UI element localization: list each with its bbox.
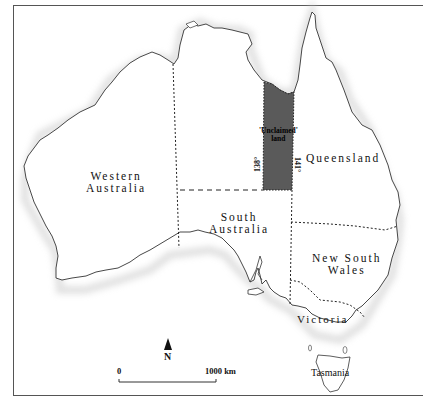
nsw-line-2: Wales [312,264,381,276]
region-label-new-south-wales: New South Wales [312,252,381,276]
unclaimed-line-2: land [259,135,298,143]
region-label-south-australia: South Australia [209,211,269,235]
longitude-label-141: 141° [293,157,302,172]
region-label-tasmania: Tasmania [311,367,349,379]
scale-end-label: 1000 km [205,366,236,376]
king-island [309,345,312,351]
longitude-label-138: 138° [253,157,262,172]
scale-start-label: 0 [117,366,121,376]
north-arrow-label: N [164,351,171,362]
western-australia-line-1: Western [86,170,146,182]
south-australia-line-2: Australia [209,223,269,235]
unclaimed-land-label: 'Unclaimed' land [259,127,298,143]
nsw-line-1: New South [312,252,381,264]
north-arrow-icon [164,338,172,350]
scale-bar [119,379,216,382]
flinders-island [343,347,347,354]
region-label-victoria: Victoria [297,313,348,325]
south-australia-line-1: South [209,211,269,223]
western-australia-line-2: Australia [86,182,146,194]
region-label-queensland: Queensland [306,152,380,164]
region-label-western-australia: Western Australia [86,170,146,194]
